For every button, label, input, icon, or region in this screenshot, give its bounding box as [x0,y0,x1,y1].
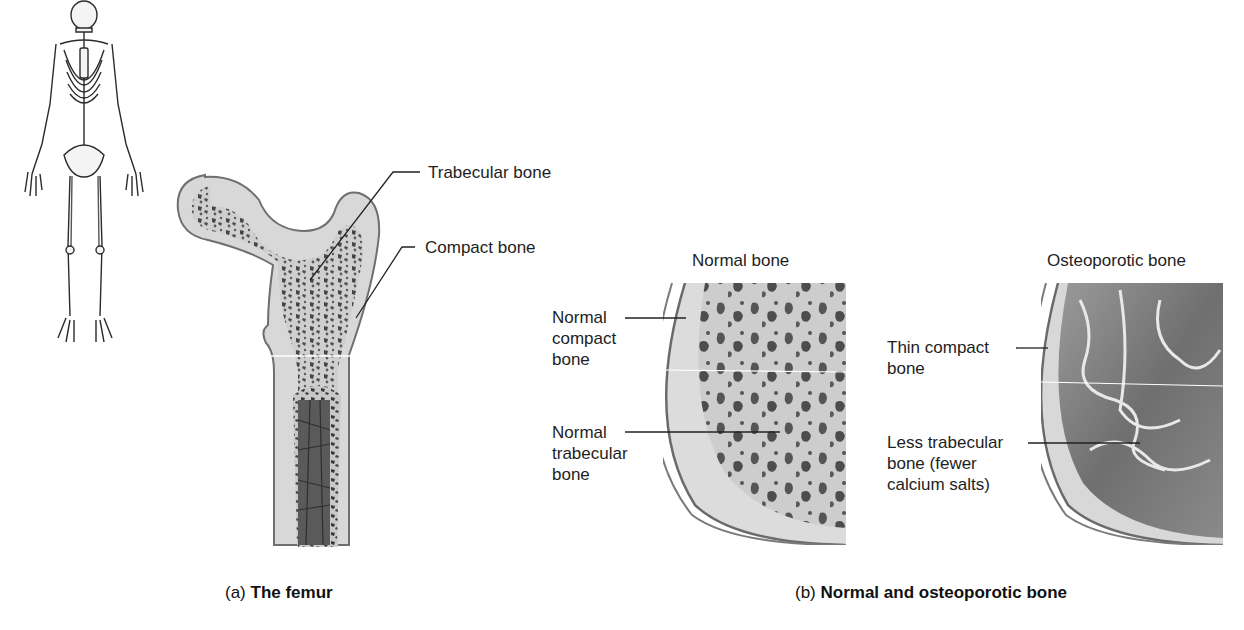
label-line: bone [887,358,989,379]
label-normal-trabecular-bone: Normal trabecular bone [552,422,628,485]
label-trabecular-bone: Trabecular bone [428,162,551,183]
caption-prefix: (b) [795,583,816,602]
label-line: calcium salts) [887,474,1003,495]
label-less-trabecular-bone: Less trabecular bone (fewer calcium salt… [887,432,1003,495]
skeleton-figure [25,1,143,342]
label-line: compact [552,328,616,349]
label-line: Less trabecular [887,432,1003,453]
label-normal-compact-bone: Normal compact bone [552,307,616,370]
osteoporotic-bone-panel [1030,283,1223,545]
caption-title: The femur [251,583,333,602]
label-line: trabecular [552,443,628,464]
label-line: Normal [552,307,616,328]
label-line: bone (fewer [887,453,1003,474]
caption-prefix: (a) [225,583,246,602]
title-osteoporotic-bone: Osteoporotic bone [1047,250,1186,271]
title-normal-bone: Normal bone [692,250,789,271]
normal-bone-panel [654,283,846,545]
caption-panel-b: (b) Normal and osteoporotic bone [795,582,1067,603]
label-thin-compact-bone: Thin compact bone [887,337,989,379]
label-line: Normal [552,422,628,443]
label-line: bone [552,349,616,370]
label-line: Thin compact [887,337,989,358]
caption-title: Normal and osteoporotic bone [821,583,1068,602]
label-line: bone [552,464,628,485]
caption-panel-a: (a) The femur [225,582,333,603]
label-compact-bone: Compact bone [425,237,536,258]
femur-illustration [178,175,379,547]
diagram-canvas [0,0,1244,630]
